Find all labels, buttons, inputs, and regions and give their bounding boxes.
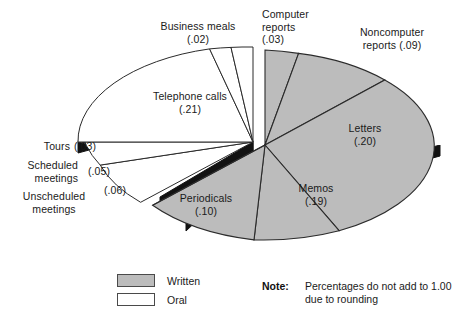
note-text: Percentages do not add to 1.00 due to ro… [305,280,455,305]
label-tours: Tours [16,140,70,153]
label-periodicals: Periodicals (.10) [160,192,252,217]
label-scheduled-meetings: Scheduled meetings [6,159,78,184]
label-unscheduled-meetings-value: (.06) [104,184,138,197]
legend-label-written: Written [167,275,200,287]
label-computer-reports: Computer reports (.03) [262,8,334,46]
label-telephone-calls: Telephone calls (.21) [128,90,252,115]
label-noncomputer-reports: Noncomputer reports (.09) [330,26,454,51]
label-letters: Letters (.20) [320,122,410,147]
label-scheduled-meetings-value: (.05) [88,165,122,178]
legend-label-oral: Oral [167,294,187,306]
legend-swatch-oral [117,293,155,306]
legend-swatch-written [117,274,155,287]
legend-item-oral: Oral [117,291,200,308]
legend-item-written: Written [117,272,200,289]
note-label: Note: [262,280,289,292]
note-block: Percentages do not add to 1.00 due to ro… [305,280,455,305]
label-business-meals: Business meals (.02) [140,20,256,45]
pie-chart-figure: Business meals (.02) Computer reports (.… [0,0,460,330]
label-tours-value: (.03) [74,140,108,153]
label-unscheduled-meetings: Unscheduled meetings [2,190,106,215]
label-memos: Memos (.19) [276,182,356,207]
chart-legend: Written Oral [117,272,200,310]
